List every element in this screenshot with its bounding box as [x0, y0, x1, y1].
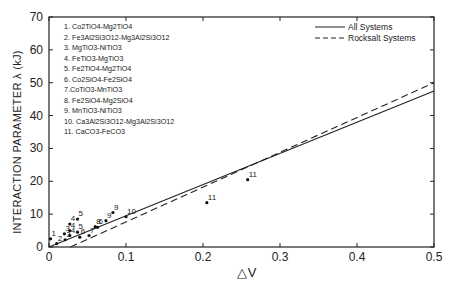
- system-entry: 9. MnTiO3-NiTiO3: [64, 106, 122, 115]
- y-tick-label: 40: [30, 109, 44, 123]
- system-entry: 3. MgTiO3-NiTiO3: [64, 43, 122, 52]
- x-tick-label: 0.4: [349, 250, 366, 264]
- x-axis-title: △V: [237, 265, 256, 280]
- point-label: 4: [71, 226, 76, 235]
- point-label: 6: [81, 227, 86, 236]
- rocksalt-systems-line: [71, 83, 434, 247]
- system-entry: 10. Ca3Al2Si3O12-Mg3Al2Si3O12: [64, 117, 174, 126]
- point-label: 9: [107, 211, 112, 220]
- x-tick-label: 0.3: [272, 250, 289, 264]
- y-tick-label: 10: [30, 207, 44, 221]
- system-entry: 1. Co2TiO4-Mg2TiO4: [64, 22, 132, 31]
- systems-list: 1. Co2TiO4-Mg2TiO42. Fe3Al2Si3O12-Mg3Al2…: [64, 22, 174, 136]
- point-label: 2: [58, 234, 63, 243]
- legend-label: All Systems: [348, 22, 392, 32]
- y-tick-label: 60: [30, 43, 44, 57]
- x-tick-label: 0.5: [426, 250, 443, 264]
- system-entry: 7.CoTiO3-MnTiO3: [64, 85, 122, 94]
- system-entry: 11. CaCO3-FeCO3: [64, 127, 125, 136]
- point-label: 5: [78, 209, 83, 218]
- point-label: 9: [114, 203, 119, 212]
- x-tick-label: 0.2: [195, 250, 212, 264]
- y-axis-title: INTERACTION PARAMETER λ (kJ): [11, 50, 23, 234]
- point-label: 6: [99, 217, 104, 226]
- x-tick-label: 0.1: [118, 250, 135, 264]
- point-label: 10: [127, 207, 136, 216]
- y-tick-label: 30: [30, 141, 44, 155]
- chart: 00.10.20.30.40.5010203040506070 12334445…: [0, 0, 458, 292]
- point-label: 11: [208, 193, 217, 202]
- x-tick-label: 0: [46, 250, 53, 264]
- system-entry: 6. Co2SiO4-Fe2SiO4: [64, 75, 132, 84]
- legend-label: Rocksalt Systems: [348, 33, 416, 43]
- point-label: 1: [52, 229, 57, 238]
- point-label: 11: [249, 170, 258, 179]
- legend: All SystemsRocksalt Systems: [315, 22, 416, 43]
- y-tick-label: 0: [36, 240, 43, 254]
- y-tick-label: 20: [30, 174, 44, 188]
- system-entry: 5. Fe2TiO4-Mg2TiO4: [64, 64, 131, 73]
- data-points: 123344455678699101111: [49, 170, 258, 246]
- y-tick-label: 70: [30, 10, 44, 24]
- y-tick-label: 50: [30, 76, 44, 90]
- system-entry: 4. FeTiO3-MgTiO3: [64, 54, 123, 63]
- system-entry: 8. Fe2SiO4-Mg2SiO4: [64, 96, 133, 105]
- system-entry: 2. Fe3Al2Si3O12-Mg3Al2Si3O12: [64, 33, 169, 42]
